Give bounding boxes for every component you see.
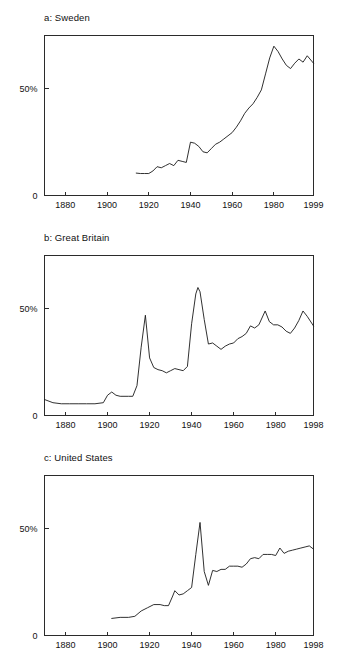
x-tick-label: 1920 [140, 420, 160, 430]
series-line-sweden [136, 46, 313, 173]
x-tick-labels-great-britain: 1880190019201940196019801998 [56, 420, 324, 430]
y-tick-labels-sweden: 050% [19, 84, 37, 201]
panel-united-states: c: United States 050% 188019001920194019… [0, 440, 342, 660]
x-tick-label: 1940 [182, 420, 202, 430]
axis-frame-path [45, 476, 314, 636]
x-tick-label: 1980 [264, 200, 284, 210]
panel-sweden: a: Sweden 050% 1880190019201940196019801… [0, 0, 342, 220]
x-tick-label: 1880 [56, 640, 76, 650]
multi-panel-line-chart-figure: a: Sweden 050% 1880190019201940196019801… [0, 0, 342, 670]
plot-frame-great-britain [45, 256, 314, 416]
x-tick-label: 1940 [182, 640, 202, 650]
axis-frame-path [45, 256, 314, 416]
x-tick-labels-united-states: 1880190019201940196019801998 [56, 640, 324, 650]
panel-great-britain: b: Great Britain 050% 188019001920194019… [0, 220, 342, 440]
plot-sweden: 050% 1880190019201940196019801999 [0, 0, 342, 220]
plot-united-states: 050% 1880190019201940196019801998 [0, 440, 342, 660]
x-tick-label: 1920 [139, 200, 159, 210]
x-tick-label: 1998 [303, 640, 323, 650]
x-tick-label: 1940 [180, 200, 200, 210]
plot-great-britain: 050% 1880190019201940196019801998 [0, 220, 342, 440]
x-ticks-great-britain [66, 412, 314, 416]
y-tick-label: 50% [19, 304, 37, 314]
x-tick-label: 1900 [98, 640, 118, 650]
x-tick-labels-sweden: 1880190019201940196019801999 [55, 200, 323, 210]
y-tick-label: 0 [32, 191, 37, 201]
x-tick-label: 1880 [55, 200, 75, 210]
x-ticks-sweden [65, 192, 313, 196]
y-tick-label: 0 [32, 631, 37, 641]
x-tick-label: 1900 [98, 420, 118, 430]
y-tick-labels-united-states: 050% [19, 524, 37, 641]
plot-frame-united-states [45, 476, 314, 636]
x-tick-label: 1998 [303, 420, 323, 430]
x-tick-label: 1980 [266, 640, 286, 650]
x-tick-label: 1920 [140, 640, 160, 650]
series-line-united-states [112, 522, 314, 618]
y-tick-label: 0 [32, 411, 37, 421]
x-tick-label: 1960 [222, 200, 242, 210]
series-line-great-britain [45, 288, 314, 404]
x-tick-label: 1960 [224, 640, 244, 650]
x-ticks-united-states [66, 632, 314, 636]
y-tick-labels-great-britain: 050% [19, 304, 37, 421]
x-tick-label: 1960 [224, 420, 244, 430]
axis-frame-path [45, 36, 314, 196]
x-tick-label: 1900 [97, 200, 117, 210]
plot-frame-sweden [45, 36, 314, 196]
x-tick-label: 1980 [266, 420, 286, 430]
y-tick-label: 50% [19, 524, 37, 534]
x-tick-label: 1999 [303, 200, 323, 210]
y-tick-label: 50% [19, 84, 37, 94]
x-tick-label: 1880 [56, 420, 76, 430]
